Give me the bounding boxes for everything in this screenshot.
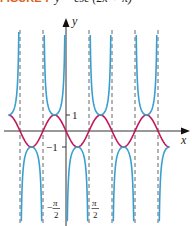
figure-label: FIGURE 7 [0,0,51,4]
figure: FIGURE 7y = csc (2x + π) y x 1 −1 − π 2 … [0,0,192,226]
y-axis-label: y [71,14,78,28]
y-tick-label-neg1: −1 [46,141,58,153]
figure-equation: y = csc (2x + π) [55,0,132,5]
cosecant-branch [136,35,157,115]
x-axis-label: x [180,133,187,147]
x-tick-label-pi-over-2: π 2 [92,198,100,220]
svg-text:π: π [53,198,58,208]
figure-title: FIGURE 7y = csc (2x + π) [0,0,132,6]
y-axis [62,18,70,226]
svg-text:π: π [92,198,97,208]
cosecant-branch [21,147,41,221]
cosecant-branch [113,147,133,221]
cosecant-branch [67,147,87,221]
y-axis-arrow-icon [63,18,70,27]
cosecant-branch [90,35,111,115]
svg-text:2: 2 [54,210,59,220]
cosecant-branch [159,147,169,221]
cosecant-branch [9,32,19,115]
y-tick-label-1: 1 [72,109,78,121]
cosecant-branch [44,35,65,115]
x-axis [4,128,190,135]
svg-text:2: 2 [93,210,98,220]
graph: y x 1 −1 − π 2 π 2 [0,0,192,226]
x-tick-label-neg-pi-over-2: − π 2 [47,198,60,220]
